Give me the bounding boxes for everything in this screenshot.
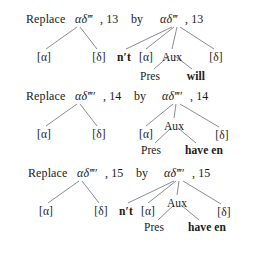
- rule-15-source-index: , 15: [105, 168, 123, 180]
- rule-14-replace-label: Replace: [26, 91, 65, 103]
- figure-canvas: Replace αδ‴ , 13 by αδ‴ , 13 [α] [δ] n′t…: [0, 0, 264, 258]
- rule-13-right-leaf-nt: n′t: [117, 52, 131, 64]
- rule-13-aux-child-pres: Pres: [140, 71, 160, 83]
- rule-15-target-symbol: αδ‴′: [164, 168, 184, 180]
- rule-15-left-leaf-alpha: [α]: [39, 206, 53, 218]
- rule-13-aux-child-will: will: [187, 71, 205, 83]
- rule-13-target-symbol: αδ‴: [160, 14, 177, 26]
- rule-15-aux-child-pres: Pres: [144, 222, 164, 234]
- rule-14-aux-child-have-en: have en: [185, 145, 223, 157]
- rule-13-right-leaf-delta: [δ]: [209, 52, 222, 64]
- rule-14-by-label: by: [134, 91, 146, 103]
- rule-13-source-symbol: αδ‴: [75, 14, 92, 26]
- rule-14-target-index: , 14: [190, 91, 208, 103]
- figure-text-layer: Replace αδ‴ , 13 by αδ‴ , 13 [α] [δ] n′t…: [0, 0, 264, 258]
- rule-14-right-leaf-delta: [δ]: [215, 130, 228, 142]
- rule-14-left-leaf-alpha: [α]: [37, 129, 51, 141]
- rule-15-replace-label: Replace: [28, 168, 67, 180]
- rule-15-right-leaf-nt: n′t: [119, 206, 133, 218]
- rule-14-right-node-aux: Aux: [164, 121, 184, 133]
- rule-15-target-index: , 15: [192, 168, 210, 180]
- rule-14-right-leaf-alpha: [α]: [139, 129, 153, 141]
- rule-15-by-label: by: [136, 168, 148, 180]
- rule-13-left-leaf-alpha: [α]: [37, 52, 51, 64]
- rule-13-right-leaf-alpha: [α]: [139, 52, 153, 64]
- rule-13-left-leaf-delta: [δ]: [92, 52, 105, 64]
- rule-14-source-index: , 14: [103, 91, 121, 103]
- rule-14-left-leaf-delta: [δ]: [92, 129, 105, 141]
- rule-15-source-symbol: αδ‴′: [77, 168, 97, 180]
- rule-15-aux-child-have-en: have en: [188, 222, 226, 234]
- rule-15-left-leaf-delta: [δ]: [94, 206, 107, 218]
- rule-14-target-symbol: αδ‴′: [162, 91, 182, 103]
- rule-14-aux-child-pres: Pres: [141, 145, 161, 157]
- rule-13-target-index: , 13: [185, 14, 203, 26]
- rule-13-source-index: , 13: [100, 14, 118, 26]
- rule-13-by-label: by: [131, 14, 143, 26]
- rule-15-right-leaf-delta: [δ]: [217, 207, 230, 219]
- rule-14-source-symbol: αδ‴′: [75, 91, 95, 103]
- rule-15-right-leaf-alpha: [α]: [141, 206, 155, 218]
- rule-13-right-node-aux: Aux: [162, 52, 182, 64]
- rule-15-right-node-aux: Aux: [167, 198, 187, 210]
- rule-13-replace-label: Replace: [26, 14, 65, 26]
